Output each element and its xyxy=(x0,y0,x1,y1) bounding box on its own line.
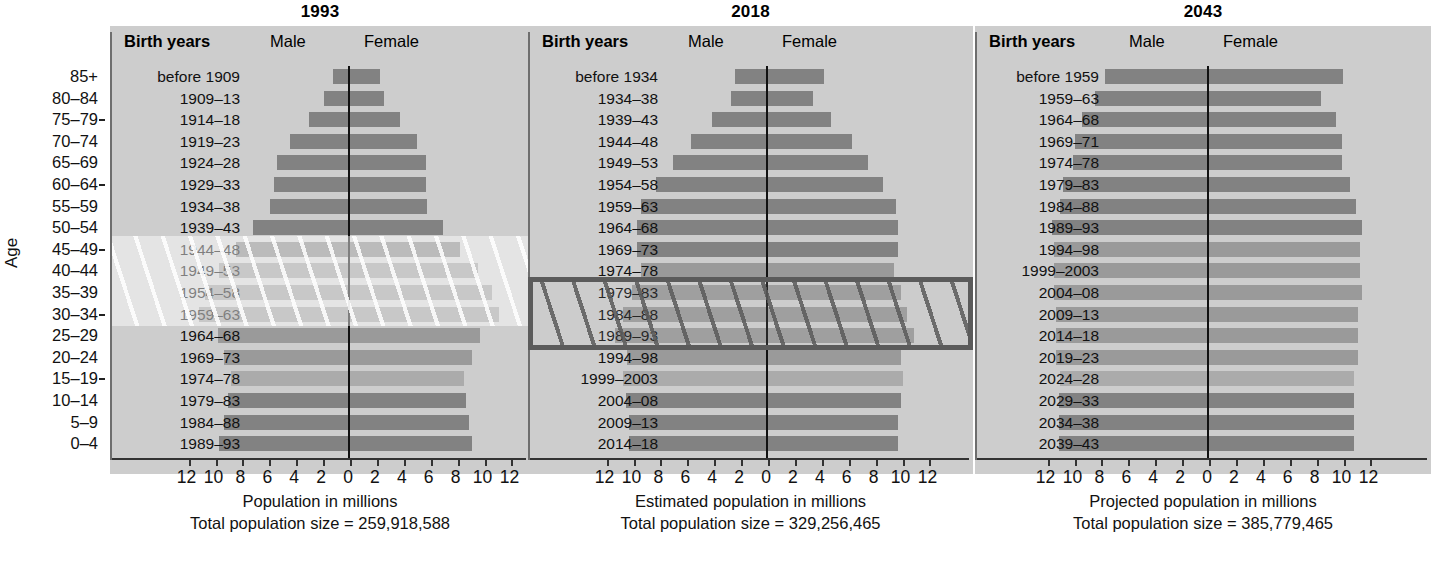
x-tick-mark xyxy=(1344,458,1346,466)
pyramid-row: 1949–53 xyxy=(528,152,973,174)
bar-male xyxy=(691,134,766,149)
x-tick-mark xyxy=(511,458,513,466)
x-tick-mark xyxy=(822,458,824,466)
x-axis-tick-labels: 12108642024681012 xyxy=(110,467,530,489)
x-tick-mark xyxy=(216,458,218,466)
pyramid-row: 1984–88 xyxy=(975,196,1431,218)
plot-area: before 19591959–631964–681969–711974–781… xyxy=(975,66,1431,456)
panel-title: 2043 xyxy=(975,2,1431,22)
pyramid-row: 1944–48 xyxy=(528,131,973,153)
age-axis-labels: 85+80–8475–7970–7465–6960–6455–5950–5445… xyxy=(20,66,98,455)
x-tick-mark xyxy=(296,458,298,466)
bar-male xyxy=(253,220,348,235)
header-birth-years: Birth years xyxy=(989,32,1075,51)
birth-year-label: 1964–68 xyxy=(112,325,240,347)
x-axis-caption: Projected population in millions xyxy=(975,492,1431,511)
age-tick-mark xyxy=(99,378,105,380)
x-tick-label: 6 xyxy=(1114,467,1138,488)
x-tick-label: 0 xyxy=(754,467,778,488)
bar-female xyxy=(766,263,894,278)
birth-year-label: 1964–68 xyxy=(977,109,1099,131)
x-tick-mark xyxy=(741,458,743,466)
x-tick-label: 8 xyxy=(228,467,252,488)
bar-female xyxy=(348,436,472,451)
age-tick-mark xyxy=(99,249,105,251)
bar-female xyxy=(348,91,384,106)
plot-area: before 19091909–131914–181919–231924–281… xyxy=(110,66,530,456)
age-tick-mark xyxy=(99,314,105,316)
x-axis-caption: Estimated population in millions xyxy=(528,492,973,511)
age-label: 15–19 xyxy=(20,368,98,390)
bar-male xyxy=(641,263,766,278)
birth-year-label: 1934–38 xyxy=(530,88,658,110)
bar-female xyxy=(766,69,824,84)
x-tick-label: 12 xyxy=(593,467,617,488)
x-tick-label: 6 xyxy=(255,467,279,488)
pyramid-row: 1929–33 xyxy=(110,174,530,196)
zero-axis-line xyxy=(348,66,350,458)
birth-year-label: 1969–73 xyxy=(112,347,240,369)
x-tick-label: 8 xyxy=(862,467,886,488)
x-tick-label: 8 xyxy=(1303,467,1327,488)
pyramid-row: 1944–48 xyxy=(110,239,530,261)
birth-year-label: 1929–33 xyxy=(112,174,240,196)
x-tick-label: 2 xyxy=(727,467,751,488)
pyramid-row: 1939–43 xyxy=(110,217,530,239)
x-tick-mark xyxy=(1290,458,1292,466)
age-label: 85+ xyxy=(20,66,98,88)
pyramid-row: 2029–33 xyxy=(975,390,1431,412)
x-tick-label: 4 xyxy=(808,467,832,488)
age-label: 65–69 xyxy=(20,152,98,174)
bar-female xyxy=(766,393,901,408)
x-tick-label: 10 xyxy=(889,467,913,488)
x-tick-mark xyxy=(1048,458,1050,466)
x-tick-mark xyxy=(687,458,689,466)
bar-female xyxy=(1207,91,1321,106)
age-label: 40–44 xyxy=(20,260,98,282)
bar-female xyxy=(1207,415,1354,430)
bar-male xyxy=(231,371,348,386)
x-tick-mark xyxy=(485,458,487,466)
birth-year-label: 1954–58 xyxy=(530,174,658,196)
x-tick-label: 12 xyxy=(1356,467,1380,488)
age-label: 5–9 xyxy=(20,412,98,434)
birth-year-label: 1969–71 xyxy=(977,131,1099,153)
birth-year-label: 1974–78 xyxy=(112,368,240,390)
pyramid-row: 1924–28 xyxy=(110,152,530,174)
bar-male xyxy=(228,393,348,408)
birth-year-label: 1959–63 xyxy=(112,304,240,326)
pyramid-row: 1994–98 xyxy=(528,347,973,369)
age-label: 50–54 xyxy=(20,217,98,239)
birth-year-label: 1999–2003 xyxy=(530,368,658,390)
bar-female xyxy=(348,263,478,278)
birth-year-label: 1934–38 xyxy=(112,196,240,218)
bar-female xyxy=(348,307,499,322)
pyramid-row: 1994–98 xyxy=(975,239,1431,261)
bar-male xyxy=(290,134,348,149)
birth-year-label: 2039–43 xyxy=(977,433,1099,455)
age-label: 55–59 xyxy=(20,196,98,218)
pyramid-row: 1969–73 xyxy=(528,239,973,261)
header-birth-years: Birth years xyxy=(124,32,210,51)
birth-year-label: 1944–48 xyxy=(112,239,240,261)
pyramid-row: 1959–63 xyxy=(528,196,973,218)
bar-female xyxy=(348,285,492,300)
pyramid-row: 1984–88 xyxy=(528,304,973,326)
x-tick-label: 10 xyxy=(1330,467,1354,488)
pyramid-row: 1989–93 xyxy=(110,433,530,455)
x-tick-mark xyxy=(876,458,878,466)
birth-year-label: 1984–88 xyxy=(530,304,658,326)
age-label: 25–29 xyxy=(20,325,98,347)
bar-female xyxy=(1207,350,1358,365)
pyramid-row: 1934–38 xyxy=(528,88,973,110)
x-tick-mark xyxy=(404,458,406,466)
zero-axis-line xyxy=(1207,66,1209,458)
birth-year-label: before 1934 xyxy=(530,66,658,88)
x-tick-label: 12 xyxy=(1034,467,1058,488)
bar-female xyxy=(1207,285,1362,300)
birth-year-label: 1989–93 xyxy=(977,217,1099,239)
birth-year-label: 1939–43 xyxy=(112,217,240,239)
pyramid-row: before 1909 xyxy=(110,66,530,88)
birth-year-label: 2009–13 xyxy=(530,412,658,434)
age-label: 70–74 xyxy=(20,131,98,153)
